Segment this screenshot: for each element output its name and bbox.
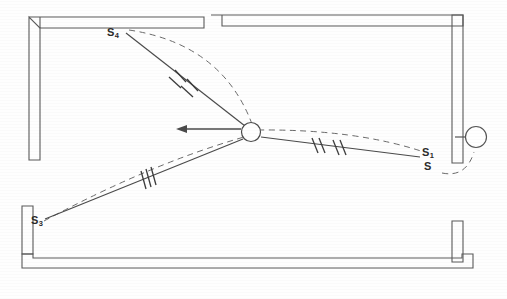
tick-marks-s4 [169,70,198,97]
label-s4: S4 [107,26,119,38]
label-s1-base: S [422,146,430,158]
label-s3: S3 [31,214,43,226]
label-s-base: S [424,160,432,172]
enclosure-walls [22,15,473,268]
label-s3-subscript: 3 [39,219,43,228]
wall-left-upper [29,17,40,160]
label-s1-subscript: 1 [430,151,434,160]
right-wall-joint [455,127,487,148]
link-s4 [126,33,245,126]
label-s3-base: S [31,214,39,226]
label-s1: S1 [422,146,434,158]
label-s: S [424,160,432,172]
wall-right-lower [452,221,463,262]
linkage-lines [45,33,420,219]
tick-marks-s3 [141,167,156,189]
trajectory-s4 [129,30,252,124]
trajectory-arcs [44,30,474,221]
wall-bottom [22,254,473,268]
velocity-arrowhead [176,125,187,133]
wall-right [452,15,463,163]
label-s4-subscript: 4 [115,31,119,40]
joint-circle [466,127,487,148]
label-s4-base: S [107,26,115,38]
wall-top-right [211,15,463,26]
center-pivot [242,123,261,142]
mechanism-diagram: S4 S3 S1 S [0,0,507,299]
link-s3 [45,139,243,219]
velocity-vector [176,125,241,133]
